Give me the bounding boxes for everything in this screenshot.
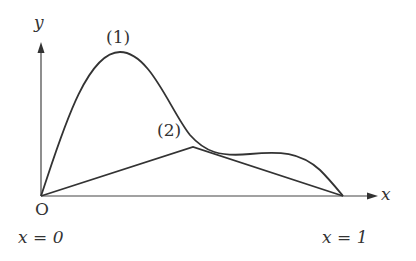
y-axis-label: y xyxy=(34,14,44,31)
curve-2-label: (2) xyxy=(157,122,181,139)
x1-label: x = 1 xyxy=(322,229,367,246)
curve-1-label: (1) xyxy=(106,29,130,46)
x-axis-label: x xyxy=(381,186,391,203)
curve-1 xyxy=(41,52,343,196)
x-axis-arrow-icon xyxy=(367,193,378,200)
curve-2 xyxy=(41,147,343,196)
origin-label: O xyxy=(35,201,49,218)
x0-label: x = 0 xyxy=(18,229,63,246)
diagram-canvas xyxy=(0,0,416,261)
y-axis-arrow-icon xyxy=(38,42,45,53)
